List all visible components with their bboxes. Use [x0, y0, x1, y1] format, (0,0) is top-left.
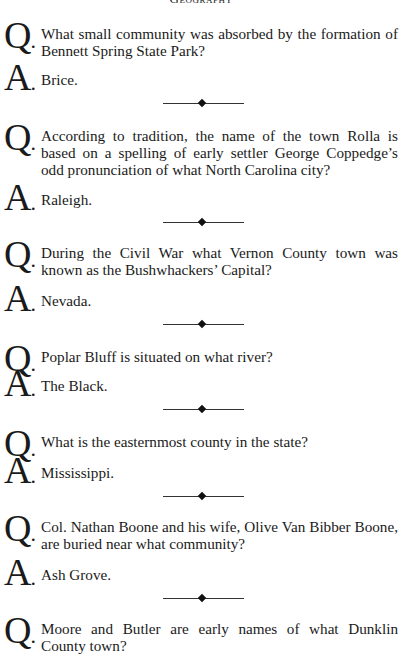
q-letter: Q.: [4, 239, 36, 275]
section-divider: [163, 594, 244, 604]
diamond-ornament-icon: [198, 99, 206, 107]
page-header: Geography: [0, 0, 402, 7]
diamond-ornament-icon: [198, 492, 206, 500]
answer-text: Brice.: [41, 62, 398, 88]
answer-text: Mississippi.: [41, 455, 398, 481]
answer-3: A. Nevada.: [4, 283, 398, 309]
section-divider: [163, 492, 244, 502]
a-letter: A.: [4, 368, 36, 404]
question-5: Q. What is the easternmost county in the…: [4, 428, 398, 450]
section-divider: [163, 320, 244, 330]
question-text: According to tradition, the name of the …: [41, 122, 398, 178]
question-text: What is the easternmost county in the st…: [41, 428, 398, 450]
answer-2: A. Raleigh.: [4, 182, 398, 208]
diamond-ornament-icon: [198, 320, 206, 328]
q-letter: Q.: [4, 513, 36, 549]
section-divider: [163, 218, 244, 228]
diamond-ornament-icon: [198, 218, 206, 226]
q-letter: Q.: [4, 122, 36, 158]
diamond-ornament-icon: [198, 405, 206, 413]
a-letter: A.: [4, 283, 36, 319]
question-text: Poplar Bluff is situated on what river?: [41, 343, 398, 365]
question-2: Q. According to tradition, the name of t…: [4, 122, 398, 178]
question-6: Q. Col. Nathan Boone and his wife, Olive…: [4, 513, 398, 552]
answer-text: Nevada.: [41, 283, 398, 309]
question-1: Q. What small community was absorbed by …: [4, 20, 398, 59]
answer-text: Raleigh.: [41, 182, 398, 208]
answer-5: A. Mississippi.: [4, 455, 398, 481]
question-text: During the Civil War what Vernon County …: [41, 239, 398, 278]
a-letter: A.: [4, 182, 36, 218]
a-letter: A.: [4, 557, 36, 593]
question-7: Q. Moore and Butler are early names of w…: [4, 615, 398, 654]
answer-text: The Black.: [41, 368, 398, 394]
q-letter: Q.: [4, 20, 36, 56]
question-4: Q. Poplar Bluff is situated on what rive…: [4, 343, 398, 365]
a-letter: A.: [4, 62, 36, 98]
question-text: Moore and Butler are early names of what…: [41, 615, 398, 654]
question-3: Q. During the Civil War what Vernon Coun…: [4, 239, 398, 278]
answer-6: A. Ash Grove.: [4, 557, 398, 583]
question-text: What small community was absorbed by the…: [41, 20, 398, 59]
q-letter: Q.: [4, 615, 36, 651]
answer-text: Ash Grove.: [41, 557, 398, 583]
answer-4: A. The Black.: [4, 368, 398, 394]
section-divider: [163, 405, 244, 415]
diamond-ornament-icon: [198, 594, 206, 602]
question-text: Col. Nathan Boone and his wife, Olive Va…: [41, 513, 398, 552]
answer-1: A. Brice.: [4, 62, 398, 88]
section-divider: [163, 99, 244, 109]
a-letter: A.: [4, 455, 36, 491]
